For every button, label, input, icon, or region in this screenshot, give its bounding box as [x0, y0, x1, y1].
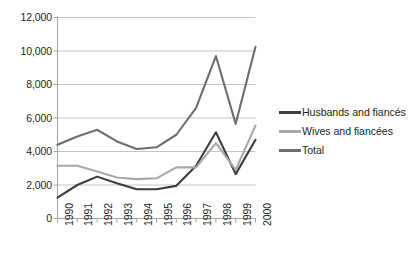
- legend-line-swatch: [279, 111, 301, 113]
- legend-item-label: Total: [302, 145, 324, 156]
- x-axis-tick-label: 1994: [142, 203, 154, 226]
- legend-item[interactable]: Husbands and fiancés: [279, 103, 417, 122]
- x-axis-tick-label: 1991: [82, 203, 94, 226]
- legend-item-label: Husbands and fiancés: [302, 107, 406, 118]
- legend-line-swatch: [279, 149, 301, 151]
- legend-line-swatch: [279, 130, 301, 132]
- x-axis-tick-label: 1990: [63, 203, 75, 226]
- legend-item[interactable]: Wives and fiancées: [279, 122, 417, 141]
- x-axis-labels: 1990199119921993199419951996199719981999…: [0, 0, 275, 268]
- chart-legend: Husbands and fiancésWives and fiancéesTo…: [279, 103, 417, 160]
- x-axis-tick-label: 1996: [181, 203, 193, 226]
- x-axis-tick-label: 1999: [241, 203, 253, 226]
- x-axis-tick-label: 1993: [122, 203, 134, 226]
- x-axis-tick-label: 1998: [221, 203, 233, 226]
- x-axis-tick-label: 1997: [201, 203, 213, 226]
- line-chart: 02,0004,0006,0008,00010,00012,000 199019…: [0, 0, 417, 268]
- x-axis-tick-label: 1992: [102, 203, 114, 226]
- legend-item-label: Wives and fiancées: [302, 126, 393, 137]
- x-axis-tick-label: 1995: [162, 203, 174, 226]
- legend-item[interactable]: Total: [279, 141, 417, 160]
- x-axis-tick-label: 2000: [261, 203, 273, 226]
